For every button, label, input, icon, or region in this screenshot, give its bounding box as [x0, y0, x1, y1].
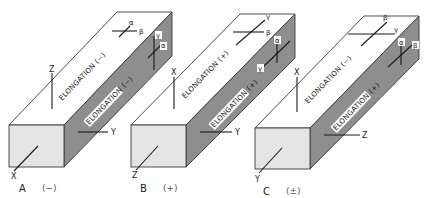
crystal-c-top-indicatrix-a-label: β: [383, 14, 387, 22]
crystal-a-top-indicatrix-b-label: β: [139, 28, 143, 36]
crystal-c-side-indicatrix-b-label: β: [413, 42, 417, 50]
crystal-a-top-indicatrix-a-label: α: [129, 19, 134, 27]
crystal-b-front-face: [131, 125, 186, 167]
crystal-c-side-axis-label: Z: [362, 131, 368, 140]
crystal-c-front-axis-label: Y: [254, 175, 260, 184]
crystal-a-label: A: [19, 183, 26, 194]
crystal-a-front-face: [9, 125, 64, 167]
crystal-b-top-indicatrix-b-label: β: [266, 29, 270, 37]
optic-elongation-diagram: X Y Z ELONGATION (−) ELONGATION (−) α β …: [0, 0, 425, 198]
crystal-b-sign: (+): [163, 183, 178, 193]
crystal-a-side-indicatrix-b-label: α: [161, 42, 166, 50]
crystal-c-front-face: [255, 128, 310, 169]
crystal-b-side-indicatrix-a-label: α: [275, 37, 280, 45]
crystal-a-sign: (−): [42, 183, 57, 193]
crystal-b-side-axis-label: Y: [234, 128, 240, 137]
crystal-b-side-indicatrix-b-label: γ: [258, 65, 262, 73]
crystal-a-front-axis-label: X: [11, 172, 17, 181]
crystal-c-top-indicatrix-b-label: γ: [394, 26, 398, 34]
crystal-c-sign: (±): [286, 186, 301, 196]
crystal-b-front-axis-label: Z: [132, 171, 138, 180]
crystal-c-label: C: [263, 186, 270, 197]
crystal-c-vertical-axis-label: X: [294, 68, 300, 77]
crystal-c-side-indicatrix-a-label: α: [399, 39, 404, 47]
crystal-a-side-indicatrix-a-label: γ: [156, 32, 160, 40]
crystal-b-label: B: [140, 183, 147, 194]
crystal-b-vertical-axis-label: X: [171, 68, 177, 77]
crystal-a-side-axis-label: Y: [110, 128, 116, 137]
crystal-b-top-indicatrix-a-label: γ: [266, 13, 270, 21]
crystal-a-vertical-axis-label: Z: [49, 65, 55, 74]
